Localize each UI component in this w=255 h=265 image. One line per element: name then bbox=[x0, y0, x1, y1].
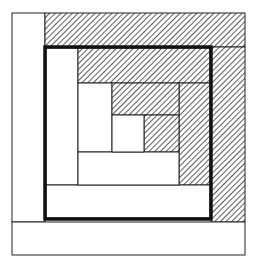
quilt-piece-outer-top bbox=[45, 13, 245, 47]
quilt-piece-ring1-top bbox=[78, 48, 210, 83]
quilt-piece-outer-left bbox=[12, 13, 45, 222]
quilt-piece-outer-bottom bbox=[12, 222, 245, 255]
quilt-piece-ring1-left bbox=[46, 48, 78, 185]
quilt-piece-ring2-bottom bbox=[78, 152, 179, 185]
quilt-piece-ring2-right bbox=[144, 115, 179, 152]
quilt-piece-ring1-right bbox=[179, 83, 210, 185]
quilt-piece-outer-right bbox=[211, 47, 245, 222]
quilt-piece-ring1-bottom bbox=[46, 185, 210, 218]
quilt-piece-ring2-left bbox=[78, 83, 112, 152]
quilt-piece-center bbox=[112, 115, 144, 152]
quilt-piece-ring2-top bbox=[112, 83, 179, 115]
log-cabin-quilt-block bbox=[0, 0, 255, 265]
